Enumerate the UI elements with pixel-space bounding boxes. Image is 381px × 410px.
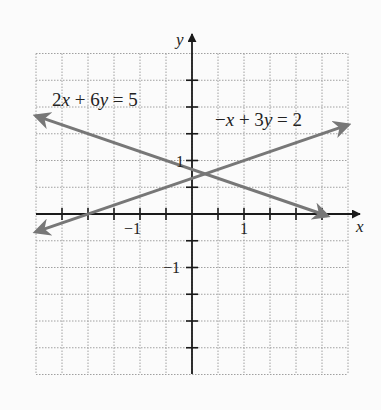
tick-label-x-pos1: 1 — [240, 220, 248, 237]
chart: x y −1 1 1 −1 2x + 6y = 5 −x + 3y = 2 — [0, 0, 381, 410]
x-axis-label: x — [355, 217, 364, 236]
y-axis-label: y — [174, 30, 184, 49]
equation-label-2: −x + 3y = 2 — [215, 109, 302, 130]
tick-label-y-pos1: 1 — [176, 153, 184, 170]
tick-label-x-neg1: −1 — [124, 220, 141, 237]
tick-label-y-neg1: −1 — [163, 259, 180, 276]
equation-label-1: 2x + 6y = 5 — [52, 89, 138, 110]
